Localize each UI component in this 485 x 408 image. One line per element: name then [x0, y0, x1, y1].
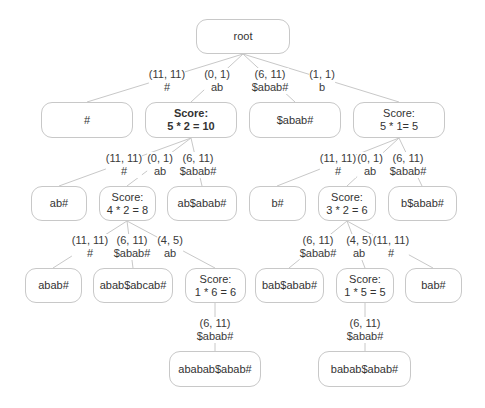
tree-node: Score:3 * 2 = 6 [318, 186, 376, 221]
node-text: babab$abab# [331, 363, 398, 376]
edge-range: (6, 11) [390, 152, 427, 165]
tree-node: bab# [405, 268, 462, 303]
node-text: Score: [331, 191, 363, 204]
tree-node: babab$abab# [318, 351, 411, 387]
node-text: ababab$abab# [178, 363, 251, 376]
edge-label: (6, 11)$abab# [300, 234, 337, 260]
tree-node: $abab# [249, 102, 341, 138]
edge-range: (11, 11) [320, 152, 356, 165]
edge-range: (6, 11) [197, 317, 234, 330]
edge-label: (4, 5)ab [157, 234, 183, 260]
node-text: 5 * 2 = 10 [167, 120, 214, 133]
tree-node: abab$abcab# [93, 268, 173, 303]
tree-node: Score:5 * 2 = 10 [145, 102, 237, 138]
edge-substring: $abab# [197, 330, 234, 343]
edge-range: (6, 11) [347, 317, 384, 330]
edge-substring: ab [346, 247, 372, 260]
edge-label: (0, 1)ab [357, 152, 383, 178]
edge-substring: # [106, 165, 142, 178]
edge-label: (11, 11)# [149, 68, 185, 94]
edge-substring: # [320, 165, 356, 178]
node-text: Score: [383, 107, 415, 120]
edge-label: (6, 11)$abab# [114, 234, 151, 260]
node-text: ab# [50, 197, 68, 210]
edge-range: (4, 5) [157, 234, 183, 247]
edge-substring: $abab# [300, 247, 337, 260]
node-text: ab$abab# [178, 197, 227, 210]
tree-node: bab$abab# [255, 268, 324, 303]
edge-substring: ab [204, 81, 230, 94]
suffix-tree-diagram: root#Score:5 * 2 = 10$abab#Score:5 * 1= … [0, 0, 485, 408]
tree-node: Score:1 * 6 = 6 [185, 268, 246, 303]
edge-substring: ab [157, 247, 183, 260]
node-text: Score: [112, 191, 144, 204]
node-text: 4 * 2 = 8 [107, 204, 148, 217]
edge-label: (6, 11)$abab# [390, 152, 427, 178]
edge-substring: $abab# [114, 247, 151, 260]
tree-node: # [41, 102, 133, 138]
edge-label: (1, 1)b [309, 68, 335, 94]
edge-range: (6, 11) [114, 234, 151, 247]
edge-substring: $abab# [347, 330, 384, 343]
edge-label: (0, 1)ab [204, 68, 230, 94]
edge-label: (11, 11)# [72, 234, 108, 260]
edge-substring: b [309, 81, 335, 94]
edge-range: (0, 1) [204, 68, 230, 81]
node-text: # [84, 114, 90, 127]
node-text: root [234, 30, 253, 43]
edge-substring: $abab# [180, 165, 217, 178]
tree-node: Score:5 * 1= 5 [353, 102, 445, 138]
edge-label: (4, 5)ab [346, 234, 372, 260]
edge-substring: # [373, 247, 409, 260]
node-text: b# [271, 197, 283, 210]
node-text: bab$abab# [262, 279, 317, 292]
tree-node: ab# [31, 186, 87, 221]
edge-range: (11, 11) [373, 234, 409, 247]
tree-node: ab$abab# [167, 186, 237, 221]
edge-label: (6, 11)$abab# [252, 68, 289, 94]
edge-label: (6, 11)$abab# [197, 317, 234, 343]
node-text: 1 * 6 = 6 [195, 286, 236, 299]
node-text: abab$abcab# [100, 279, 167, 292]
edge-substring: $abab# [390, 165, 427, 178]
node-text: bab# [421, 279, 445, 292]
edge-range: (6, 11) [180, 152, 217, 165]
tree-node: abab# [25, 268, 82, 303]
edge-range: (1, 1) [309, 68, 335, 81]
tree-node: Score:1 * 5 = 5 [336, 268, 394, 303]
tree-node: Score:4 * 2 = 8 [99, 186, 156, 221]
node-text: $abab# [277, 114, 314, 127]
tree-node: b$abab# [388, 186, 457, 221]
node-text: 1 * 5 = 5 [344, 286, 385, 299]
edge-label: (11, 11)# [106, 152, 142, 178]
edge-label: (11, 11)# [373, 234, 409, 260]
node-text: Score: [174, 107, 208, 120]
node-text: 3 * 2 = 6 [326, 204, 367, 217]
edge-substring: ab [147, 165, 173, 178]
node-text: b$abab# [401, 197, 444, 210]
edge-range: (11, 11) [106, 152, 142, 165]
edge-range: (0, 1) [147, 152, 173, 165]
edge-label: (6, 11)$abab# [347, 317, 384, 343]
tree-node: b# [249, 186, 306, 221]
edge-substring: # [72, 247, 108, 260]
edge-range: (11, 11) [72, 234, 108, 247]
root-node: root [196, 19, 290, 54]
node-text: Score: [200, 273, 232, 286]
edge-label: (6, 11)$abab# [180, 152, 217, 178]
node-text: abab# [38, 279, 69, 292]
node-text: Score: [349, 273, 381, 286]
edge-label: (11, 11)# [320, 152, 356, 178]
edge-range: (0, 1) [357, 152, 383, 165]
tree-node: ababab$abab# [169, 351, 261, 387]
edge-range: (6, 11) [252, 68, 289, 81]
edge-range: (11, 11) [149, 68, 185, 81]
edge-substring: $abab# [252, 81, 289, 94]
node-text: 5 * 1= 5 [380, 120, 418, 133]
edge-label: (0, 1)ab [147, 152, 173, 178]
edge-substring: # [149, 81, 185, 94]
edge-range: (4, 5) [346, 234, 372, 247]
edge-range: (6, 11) [300, 234, 337, 247]
edge-substring: ab [357, 165, 383, 178]
